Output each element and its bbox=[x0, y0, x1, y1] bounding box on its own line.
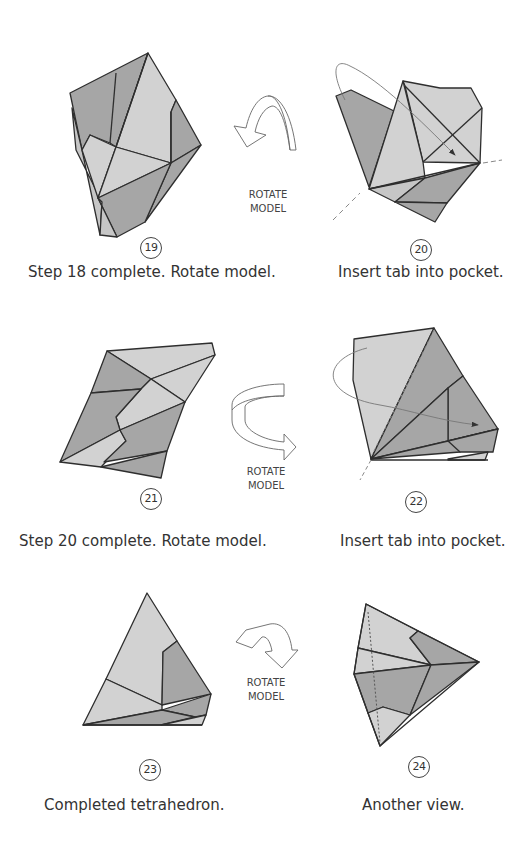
rotate-label-line2: MODEL bbox=[236, 690, 296, 704]
figure-step-24 bbox=[354, 604, 479, 746]
step-number-24: 24 bbox=[408, 756, 430, 778]
step-number-23: 23 bbox=[139, 759, 161, 781]
rotate-arrow-icon-2 bbox=[232, 384, 296, 460]
rotate-label-line2: MODEL bbox=[238, 202, 298, 216]
rotate-label-line1: ROTATE bbox=[236, 465, 296, 479]
figure-step-19 bbox=[70, 53, 201, 237]
figure-step-21 bbox=[60, 343, 215, 478]
caption-step-22: Insert tab into pocket. bbox=[340, 532, 506, 550]
rotate-label-line2: MODEL bbox=[236, 479, 296, 493]
axis-dashed-22 bbox=[360, 460, 371, 480]
rotate-arrow-icon-3 bbox=[236, 624, 298, 668]
rotate-label-line1: ROTATE bbox=[238, 188, 298, 202]
step-number-20: 20 bbox=[410, 239, 432, 261]
figure-step-20 bbox=[336, 81, 482, 222]
caption-step-21: Step 20 complete. Rotate model. bbox=[19, 532, 267, 550]
rotate-label-line1: ROTATE bbox=[236, 676, 296, 690]
diagram-canvas bbox=[0, 0, 529, 847]
rotate-model-label-3: ROTATE MODEL bbox=[236, 676, 296, 704]
rotate-model-label-2: ROTATE MODEL bbox=[236, 465, 296, 493]
step-number-19: 19 bbox=[140, 237, 162, 259]
axis-dashed-20a bbox=[333, 193, 360, 220]
caption-step-23: Completed tetrahedron. bbox=[44, 796, 224, 814]
rotate-arrow-icon-1 bbox=[234, 96, 296, 150]
caption-step-19: Step 18 complete. Rotate model. bbox=[28, 263, 276, 281]
figure-step-23 bbox=[83, 593, 211, 725]
rotate-model-label-1: ROTATE MODEL bbox=[238, 188, 298, 216]
axis-dashed-20b bbox=[483, 160, 502, 163]
step-number-21: 21 bbox=[140, 488, 162, 510]
step-number-22: 22 bbox=[405, 491, 427, 513]
caption-step-20: Insert tab into pocket. bbox=[338, 263, 504, 281]
caption-step-24: Another view. bbox=[362, 796, 464, 814]
